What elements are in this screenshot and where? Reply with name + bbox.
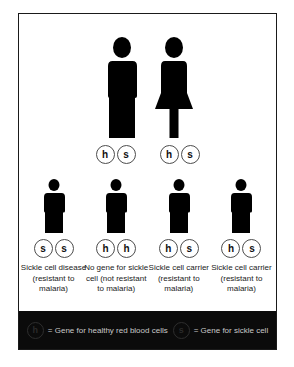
allele-circle: h (117, 239, 136, 258)
allele-circle: s (117, 145, 136, 164)
allele-circle: s (173, 322, 190, 339)
child-column: h s Sickle cell carrier (resistant to ma… (148, 179, 209, 295)
male-figure-icon (102, 37, 142, 138)
allele-circle: s (242, 239, 261, 258)
allele-circle: h (159, 239, 178, 258)
allele-circle: h (27, 322, 44, 339)
diagram-frame: h s h s s s Sickle cell disease (resist (18, 13, 277, 350)
parent-female-alleles: h s (154, 145, 206, 164)
child-caption: Sickle cell carrier (resistant to malari… (208, 263, 274, 295)
allele-circle: s (34, 239, 53, 258)
child-alleles: h h (96, 239, 136, 258)
child-alleles: s s (34, 239, 74, 258)
allele-circle: s (181, 145, 200, 164)
child-caption: Sickle cell carrier (resistant to malari… (146, 263, 212, 295)
child-caption: No gene for sickle cell (not resistant t… (83, 263, 149, 295)
allele-circle: s (55, 239, 74, 258)
parent-male-alleles: h s (90, 145, 142, 164)
legend-label: = Gene for sickle cell (194, 326, 268, 335)
legend-item-sickle: s = Gene for sickle cell (173, 322, 268, 339)
child-column: s s Sickle cell disease (resistant to ma… (23, 179, 84, 295)
child-alleles: h s (221, 239, 261, 258)
legend-item-healthy: h = Gene for healthy red blood cells (27, 322, 168, 339)
child-figure-icon (101, 179, 131, 233)
allele-circle: h (96, 239, 115, 258)
child-figure-icon (226, 179, 256, 233)
diagram-panel: h s h s s s Sickle cell disease (resist (19, 14, 276, 311)
parent-male (102, 37, 142, 142)
allele-circle: h (221, 239, 240, 258)
child-column: h h No gene for sickle cell (not resista… (86, 179, 147, 295)
legend-bar: h = Gene for healthy red blood cells s =… (19, 311, 276, 349)
parent-alleles-row: h s h s (19, 145, 276, 164)
child-figure-icon (39, 179, 69, 233)
children-row: s s Sickle cell disease (resistant to ma… (23, 179, 272, 295)
parent-female (154, 37, 194, 142)
child-caption: Sickle cell disease (resistant to malari… (21, 263, 87, 295)
allele-circle: s (180, 239, 199, 258)
child-column: h s Sickle cell carrier (resistant to ma… (211, 179, 272, 295)
parents-row (19, 37, 276, 142)
female-figure-icon (154, 37, 194, 138)
allele-circle: h (96, 145, 115, 164)
child-figure-icon (164, 179, 194, 233)
child-alleles: h s (159, 239, 199, 258)
allele-circle: h (160, 145, 179, 164)
legend-label: = Gene for healthy red blood cells (48, 326, 168, 335)
